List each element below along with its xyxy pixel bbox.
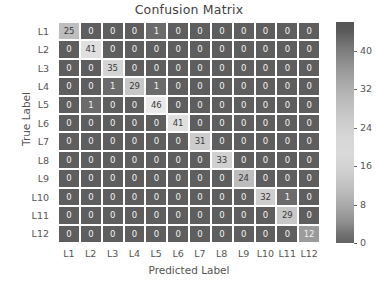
heatmap-cell-value: 0 (132, 64, 137, 73)
heatmap-cell-value: 0 (132, 45, 137, 54)
heatmap-cell-value: 0 (197, 101, 202, 110)
heatmap-cell-value: 0 (306, 45, 311, 54)
heatmap-cell: 0 (298, 59, 320, 77)
heatmap-cell-value: 0 (110, 27, 115, 36)
x-tick-label: L2 (80, 245, 102, 261)
y-axis-tick-labels: L1L2L3L4L5L6L7L8L9L10L11L12 (0, 22, 54, 243)
heatmap-cell: 0 (298, 77, 320, 95)
colorbar-tick: 8 (354, 205, 379, 206)
heatmap-cell-value: 0 (306, 137, 311, 146)
heatmap-cell: 41 (167, 114, 189, 132)
heatmap-cell: 29 (124, 77, 146, 95)
heatmap-cell: 0 (102, 225, 124, 243)
heatmap-cell-value: 0 (263, 230, 268, 239)
heatmap-cell-value: 32 (260, 193, 270, 202)
heatmap-cell-value: 0 (285, 156, 290, 165)
heatmap-cell: 0 (167, 96, 189, 114)
heatmap-cell-value: 0 (285, 82, 290, 91)
heatmap-cell-value: 0 (88, 193, 93, 202)
heatmap-cell-value: 0 (285, 230, 290, 239)
heatmap-cell: 0 (145, 114, 167, 132)
heatmap-cell: 1 (145, 22, 167, 40)
heatmap-cell: 0 (211, 96, 233, 114)
x-tick-label: L12 (298, 245, 320, 261)
heatmap-cell: 0 (255, 169, 277, 187)
heatmap-cell-value: 0 (241, 230, 246, 239)
heatmap-cell-value: 0 (285, 27, 290, 36)
heatmap-cell-value: 0 (197, 211, 202, 220)
heatmap-cell-value: 0 (66, 211, 71, 220)
heatmap-cell-value: 0 (263, 27, 268, 36)
colorbar-tick-mark (354, 89, 357, 90)
heatmap-cell-value: 0 (132, 211, 137, 220)
y-tick-label: L8 (0, 151, 54, 169)
heatmap-cell-value: 29 (129, 82, 139, 91)
heatmap-cell: 0 (255, 225, 277, 243)
x-tick-label: L3 (102, 245, 124, 261)
heatmap-cell: 0 (211, 40, 233, 58)
heatmap-cell: 0 (145, 225, 167, 243)
heatmap-cell: 0 (211, 77, 233, 95)
heatmap-cell: 0 (276, 77, 298, 95)
x-tick-label: L11 (276, 245, 298, 261)
heatmap-cell: 0 (211, 206, 233, 224)
colorbar-tick-label: 40 (360, 45, 372, 56)
heatmap-cell: 0 (233, 206, 255, 224)
heatmap-cell-value: 0 (175, 174, 180, 183)
heatmap-cell-value: 0 (306, 27, 311, 36)
heatmap-cell-value: 0 (306, 193, 311, 202)
colorbar-gradient (336, 22, 354, 243)
heatmap-cell: 0 (167, 151, 189, 169)
heatmap-cell-value: 0 (197, 27, 202, 36)
heatmap-cell: 0 (124, 188, 146, 206)
heatmap-cell: 0 (102, 151, 124, 169)
heatmap-cell-value: 41 (173, 119, 183, 128)
heatmap-cell: 0 (124, 40, 146, 58)
heatmap-cell-value: 0 (154, 211, 159, 220)
colorbar-tick-label: 32 (360, 83, 372, 94)
heatmap-cell-value: 0 (241, 119, 246, 128)
heatmap-cell-value: 0 (132, 27, 137, 36)
y-tick-label: L1 (0, 22, 54, 40)
heatmap-cell-value: 31 (195, 137, 205, 146)
heatmap-cell-value: 0 (263, 137, 268, 146)
heatmap-cell-value: 0 (175, 64, 180, 73)
heatmap-cell: 0 (58, 169, 80, 187)
heatmap-cell: 0 (80, 77, 102, 95)
heatmap-cell: 0 (58, 206, 80, 224)
heatmap-cell: 0 (145, 188, 167, 206)
heatmap-cell: 0 (255, 22, 277, 40)
heatmap-cell: 0 (211, 132, 233, 150)
heatmap-cell: 0 (58, 132, 80, 150)
heatmap-cell: 0 (276, 22, 298, 40)
heatmap-grid: 2500010000000041000000000000350000000000… (58, 22, 320, 243)
heatmap-cell-value: 0 (66, 45, 71, 54)
heatmap-cell: 41 (80, 40, 102, 58)
colorbar-tick-mark (354, 128, 357, 129)
heatmap-cell-value: 33 (217, 156, 227, 165)
heatmap-cell: 25 (58, 22, 80, 40)
heatmap-cell-value: 0 (263, 64, 268, 73)
colorbar-tick-label: 24 (360, 122, 372, 133)
heatmap-cell-value: 0 (175, 156, 180, 165)
heatmap-cell-value: 12 (304, 230, 314, 239)
heatmap-cell: 0 (211, 188, 233, 206)
heatmap-cell: 0 (298, 132, 320, 150)
heatmap-cell: 0 (80, 169, 102, 187)
heatmap-cell-value: 0 (110, 211, 115, 220)
heatmap-cell-value: 0 (219, 27, 224, 36)
heatmap-cell: 0 (124, 59, 146, 77)
heatmap-cell-value: 0 (219, 82, 224, 91)
heatmap-cell-value: 0 (306, 156, 311, 165)
heatmap-cell-value: 0 (306, 101, 311, 110)
heatmap-cell-value: 0 (88, 27, 93, 36)
heatmap-cell-value: 0 (197, 119, 202, 128)
y-tick-label: L4 (0, 77, 54, 95)
heatmap-cell: 0 (124, 96, 146, 114)
y-tick-label: L3 (0, 59, 54, 77)
heatmap-cell: 0 (189, 114, 211, 132)
heatmap-cell-value: 0 (219, 174, 224, 183)
heatmap-cell-value: 0 (154, 137, 159, 146)
heatmap-cell: 32 (255, 188, 277, 206)
heatmap-cell: 0 (145, 59, 167, 77)
